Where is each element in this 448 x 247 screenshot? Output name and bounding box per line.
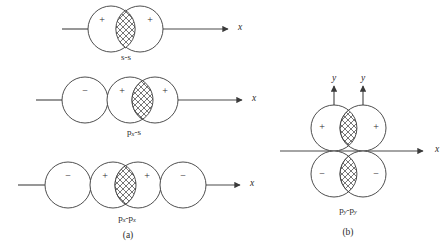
axis-label-x: x bbox=[251, 93, 257, 103]
pair-label-px-s: px-s bbox=[127, 127, 141, 137]
sign-label: + bbox=[162, 85, 168, 96]
orbital-circle bbox=[45, 162, 91, 208]
orbital-circle bbox=[62, 77, 108, 123]
panel-label-b: (b) bbox=[342, 227, 353, 238]
row-px-px: − + + − x px-px bbox=[18, 162, 255, 223]
sign-label: + bbox=[99, 14, 105, 25]
sign-label: + bbox=[119, 85, 125, 96]
row-s-s: + + x s-s bbox=[62, 6, 243, 62]
pair-label-px-px-sub2: x bbox=[132, 216, 136, 223]
pair-label-py-py: py-py bbox=[339, 205, 357, 215]
row-px-s: − + + x px-s bbox=[36, 77, 257, 137]
axis-label-x: x bbox=[249, 178, 255, 188]
pair-label-py-py-sub2: y bbox=[353, 208, 357, 215]
orbital-overlap-figure: + + x s-s − + + x px-s bbox=[0, 0, 448, 247]
figure-canvas: + + x s-s − + + x px-s bbox=[0, 0, 448, 247]
sign-label: + bbox=[147, 14, 153, 25]
sign-label: − bbox=[373, 168, 379, 179]
orbital-circle bbox=[160, 162, 206, 208]
pair-label-s-s: s-s bbox=[121, 52, 131, 62]
panel-label-a: (a) bbox=[123, 230, 134, 241]
pair-label-px-px: px-px bbox=[118, 213, 136, 223]
sign-label: − bbox=[180, 170, 186, 181]
sign-label: − bbox=[65, 170, 71, 181]
sign-label: + bbox=[102, 170, 108, 181]
sign-label: + bbox=[144, 170, 150, 181]
sign-label: − bbox=[82, 85, 88, 96]
pair-label-px-s-rest: -s bbox=[134, 127, 141, 137]
panel-b: x y y + + − − py-py (b) bbox=[280, 73, 440, 238]
axis-label-x-b: x bbox=[434, 144, 440, 154]
sign-label: + bbox=[319, 121, 325, 132]
sign-label: + bbox=[373, 121, 379, 132]
axis-label-y-right: y bbox=[360, 73, 366, 83]
sign-label: − bbox=[319, 168, 325, 179]
axis-label-y-left: y bbox=[331, 73, 337, 83]
axis-label-x: x bbox=[237, 22, 243, 32]
